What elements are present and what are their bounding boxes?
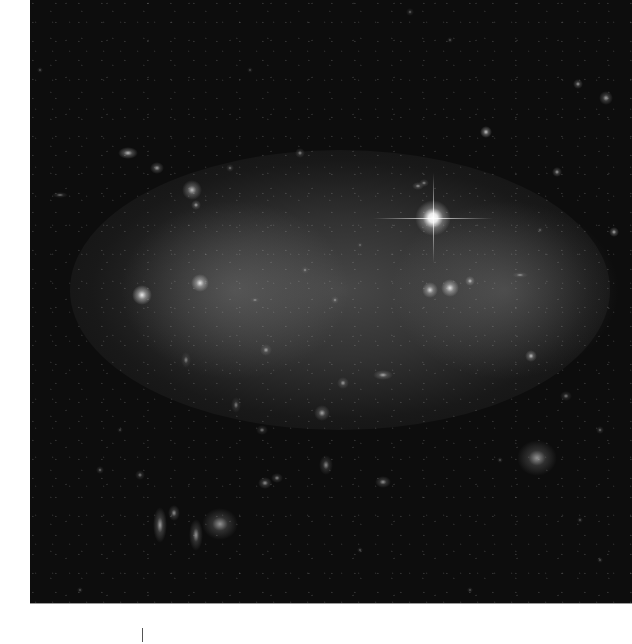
galaxy [406, 8, 414, 16]
diffraction-spike-vertical [433, 173, 434, 263]
galaxy [314, 405, 330, 421]
galaxy [447, 37, 453, 43]
galaxy [596, 426, 604, 434]
astronomical-image [30, 0, 632, 603]
galaxy [77, 587, 83, 593]
galaxy [441, 279, 459, 297]
galaxy [231, 397, 241, 413]
galaxy [96, 466, 104, 474]
galaxy [295, 148, 305, 158]
galaxy [525, 350, 537, 362]
galaxy [552, 167, 562, 177]
galaxy [256, 425, 268, 435]
galaxy [247, 67, 253, 73]
galaxy [37, 67, 43, 73]
galaxy [250, 297, 260, 303]
galaxy [512, 272, 528, 278]
galaxy [517, 440, 557, 476]
galaxy [560, 391, 572, 401]
galaxy [118, 147, 138, 159]
galaxy [375, 476, 391, 488]
galaxy [135, 470, 145, 480]
galaxy [153, 507, 167, 543]
galaxy [337, 377, 349, 389]
galaxy [537, 227, 543, 233]
galaxy [573, 79, 583, 89]
galaxy [191, 274, 209, 292]
galaxy [191, 200, 201, 210]
galaxy [497, 457, 503, 463]
galaxy [258, 477, 272, 489]
galaxy [373, 370, 393, 380]
galaxy [271, 473, 283, 483]
galaxy [577, 517, 583, 523]
galaxy [150, 162, 164, 174]
galaxy [609, 227, 619, 237]
galaxy [319, 455, 333, 475]
galaxy [301, 266, 309, 274]
galaxy [422, 282, 438, 298]
galaxy [599, 91, 613, 105]
galaxy [419, 179, 429, 187]
galaxy [357, 242, 363, 248]
galaxy [168, 505, 180, 521]
image-bottom-edge [30, 603, 632, 604]
galaxy [331, 296, 339, 304]
galaxy [357, 547, 363, 553]
galaxy [52, 192, 68, 198]
galaxy [189, 519, 203, 551]
galaxy [467, 587, 473, 593]
galaxy [597, 557, 603, 563]
galaxy [132, 285, 152, 305]
galaxy [117, 427, 123, 433]
galaxy [202, 508, 238, 540]
tick-mark [142, 628, 143, 642]
galaxy [260, 344, 272, 356]
galaxy [182, 180, 202, 200]
galaxy [181, 352, 191, 368]
galaxy [226, 164, 234, 172]
galaxy [465, 276, 475, 286]
galaxy [480, 126, 492, 138]
